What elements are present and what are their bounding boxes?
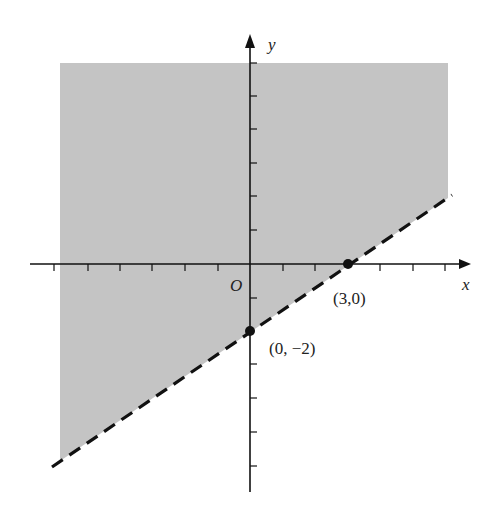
point-3-0: [343, 259, 353, 269]
graph-canvas: [0, 0, 496, 517]
x-axis-label: x: [462, 276, 470, 293]
point-0-neg2: [245, 326, 255, 336]
origin-label: O: [230, 277, 242, 294]
shaded-region: [60, 63, 448, 461]
x-axis-arrow-icon: [459, 259, 471, 269]
point-label-0-neg2: (0, −2): [269, 340, 315, 357]
y-axis-arrow-icon: [245, 34, 255, 48]
point-label-3-0: (3,0): [333, 290, 366, 307]
y-axis-label: y: [268, 36, 276, 53]
